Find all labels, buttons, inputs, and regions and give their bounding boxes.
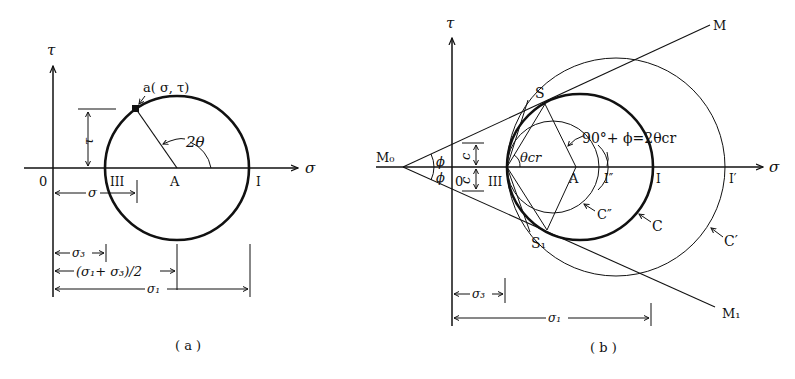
tau-axis-label: τ [47, 41, 56, 59]
mohr-circle-figure: τ σ 0 a( σ, τ) 2θ A III I τ σ σ₃ [0, 0, 795, 379]
point-I-double-prime-label: I″ [604, 172, 614, 186]
angle-equation-label: 90°+ ϕ=2θcr [582, 130, 676, 146]
point-I-label: I [256, 175, 261, 189]
theta-cr-label: θcr [520, 150, 542, 165]
panel-a: τ σ 0 a( σ, τ) 2θ A III I τ σ σ₃ [24, 41, 316, 353]
point-I-label-b: I [656, 172, 661, 186]
point-a-marker [132, 105, 139, 112]
sigma-axis-label-b: σ [769, 158, 780, 176]
sigma1-dimension-label-b: σ₁ [548, 311, 561, 325]
sigma3-dimension-label: σ₃ [72, 246, 85, 260]
caption-a: ( a ) [175, 338, 201, 353]
radius-line [136, 109, 177, 168]
vertex-M0-label: M₀ [376, 150, 395, 165]
origin-label: 0 [39, 174, 47, 189]
circle-C-prime-label: C′ [724, 233, 738, 249]
circle-C-double-prime-label: C″ [597, 207, 612, 222]
tau-axis-label-b: τ [446, 14, 455, 32]
point-S1-label: S₁ [531, 235, 546, 251]
cohesion-upper-label: c [458, 152, 473, 160]
panel-b: τ σ 0 M₀ M M₁ ϕ ϕ c c [376, 14, 780, 355]
sigma3-dimension-label-b: σ₃ [472, 287, 485, 301]
point-I-prime-label: I′ [729, 172, 737, 186]
sigma1-dimension-label: σ₁ [147, 282, 160, 296]
caption-b: ( b ) [590, 340, 617, 355]
circle-C-label: C [652, 218, 663, 234]
sigma-axis-label: σ [305, 159, 316, 177]
point-A-label-b: A [568, 171, 579, 186]
line-M1-label: M₁ [722, 306, 741, 321]
point-III-label-b: III [488, 175, 502, 189]
cohesion-lower-label: c [458, 176, 473, 184]
line-M-label: M [713, 18, 726, 33]
phi-arc-upper [431, 154, 434, 167]
sigma-dimension-label: σ [88, 185, 98, 200]
mean-stress-dimension-label: (σ₁+ σ₃)/2 [76, 264, 142, 279]
phi-upper-label: ϕ [436, 154, 445, 169]
point-S-label: S [535, 85, 545, 101]
line-S-A [545, 104, 576, 167]
center-a-label: A [169, 174, 180, 189]
point-a-label: a( σ, τ) [143, 80, 189, 95]
angle-2theta-label: 2θ [185, 133, 205, 151]
phi-lower-label: ϕ [436, 170, 445, 185]
phi-arc-lower [431, 167, 434, 180]
point-III-label: III [110, 175, 124, 189]
tau-dimension-label: τ [81, 137, 96, 145]
